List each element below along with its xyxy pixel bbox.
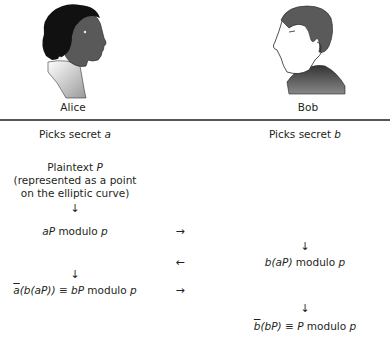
plaintext-note-1: (represented as a point	[0, 174, 150, 187]
b-var: b	[265, 256, 272, 268]
alice-secret-var: a	[104, 128, 110, 140]
divider-line	[0, 119, 390, 121]
bob-picks-secret: Picks secret b	[230, 128, 380, 141]
bob-step-decrypt: b(bP) ≡ P modulo p	[230, 320, 380, 333]
modulo-text: modulo	[84, 284, 130, 296]
bp-var: bP	[71, 284, 84, 296]
modulo-text: modulo	[55, 225, 101, 237]
decrypt-inner: (bP) ≡	[260, 320, 297, 332]
bob-arrow-down-2: ↓	[230, 302, 380, 315]
alice-picks-label: Picks secret	[39, 128, 104, 140]
alice-arrow-down-1: ↓	[0, 202, 150, 215]
alice-plaintext: Plaintext P	[0, 161, 150, 174]
alice-label: Alice	[38, 101, 108, 114]
arrow-alice-to-bob-2: →	[160, 284, 200, 297]
mod-p: p	[130, 284, 137, 296]
modulo-text: modulo	[292, 256, 338, 268]
ap-inner: (aP)	[272, 256, 293, 268]
alice-picks-secret: Picks secret a	[0, 128, 150, 141]
alice-step-ap: aP modulo p	[0, 225, 150, 238]
bob-arrow-down-1: ↓	[230, 240, 380, 253]
mod-p: p	[338, 256, 345, 268]
ap-var: aP	[42, 225, 55, 237]
mod-p: p	[101, 225, 108, 237]
modulo-text: modulo	[304, 320, 350, 332]
bob-step-baP: b(aP) modulo p	[230, 256, 380, 269]
alice-portrait-icon	[38, 2, 108, 100]
decrypt-inner: (b(aP)) ≡	[20, 284, 71, 296]
plaintext-label: Plaintext	[47, 161, 96, 173]
arrow-bob-to-alice: ←	[160, 256, 200, 269]
alice-portrait	[38, 2, 108, 100]
plaintext-var: P	[96, 161, 102, 173]
bob-portrait	[265, 2, 350, 98]
bob-picks-label: Picks secret	[269, 128, 334, 140]
bob-secret-var: b	[334, 128, 341, 140]
alice-arrow-down-2: ↓	[0, 268, 150, 281]
alice-step-decrypt: a(b(aP)) ≡ bP modulo p	[0, 284, 150, 297]
bob-label: Bob	[268, 101, 348, 114]
arrow-alice-to-bob-1: →	[160, 225, 200, 238]
plaintext-note-2: on the elliptic curve)	[0, 187, 150, 200]
bob-portrait-icon	[265, 2, 350, 98]
mod-p: p	[350, 320, 357, 332]
